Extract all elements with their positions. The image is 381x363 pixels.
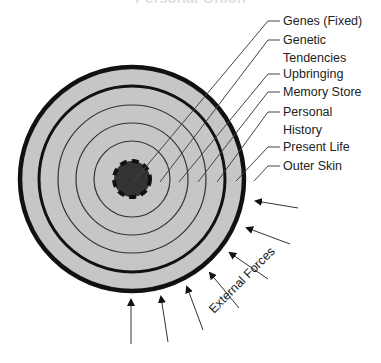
- label-outer: Outer Skin: [283, 157, 342, 175]
- label-upbringing: Upbringing: [283, 65, 343, 83]
- arrow-icon: [256, 201, 298, 208]
- arrow-icon: [161, 297, 168, 342]
- label-memory: Memory Store: [283, 83, 362, 101]
- label-personal-1: Personal: [283, 103, 332, 121]
- label-genes: Genes (Fixed): [283, 12, 362, 30]
- arrow-icon: [187, 287, 203, 330]
- leader-outer: [254, 166, 280, 181]
- label-present: Present Life: [283, 138, 350, 156]
- genes-core: [114, 161, 150, 197]
- onion-diagram: Personal Onion: [0, 0, 381, 363]
- label-personal-2: History: [283, 121, 322, 139]
- label-genetic-1: Genetic: [283, 31, 326, 49]
- arrow-icon: [247, 228, 290, 244]
